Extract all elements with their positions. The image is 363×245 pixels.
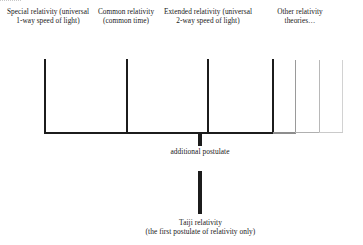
- root-label-subtitle: (the first postulate of relativity only): [63, 227, 338, 236]
- crossbar-line: [44, 132, 274, 134]
- crossbar-fade-segment-1: [273, 132, 296, 134]
- trunk-stub-upper: [198, 133, 202, 146]
- branch-line-faded-1: [295, 60, 296, 133]
- root-label-taiji-relativity: Taiji relativity (the first postulate of…: [63, 218, 338, 237]
- branch-label-special-relativity: Special relativity (universal 1-way spee…: [3, 7, 93, 25]
- relativity-tree-diagram: Special relativity (universal 1-way spee…: [0, 0, 363, 245]
- branch-line-faded-2: [319, 60, 320, 133]
- branch-line-faded-3: [342, 60, 343, 133]
- branch-label-other-relativity-theories: Other relativity theories…: [272, 7, 328, 25]
- branch-label-extended-relativity: Extended relativity (universal 2-way spe…: [160, 7, 256, 25]
- root-label-title: Taiji relativity: [63, 218, 338, 227]
- branch-line-common-relativity: [126, 59, 128, 133]
- branch-line-special-relativity: [44, 59, 46, 133]
- crossbar-fade-segment-3: [319, 132, 343, 133]
- branch-line-extended-relativity: [207, 59, 209, 133]
- connector-label-additional-postulate: additional postulate: [140, 147, 260, 156]
- trunk-line-taiji: [198, 171, 202, 214]
- branch-line-other-relativity-theories: [272, 59, 274, 133]
- branch-label-common-relativity: Common relativity (common time): [90, 7, 162, 25]
- crossbar-fade-segment-2: [295, 132, 320, 133]
- crossbar-dotted-tail: [0, 0, 21, 2]
